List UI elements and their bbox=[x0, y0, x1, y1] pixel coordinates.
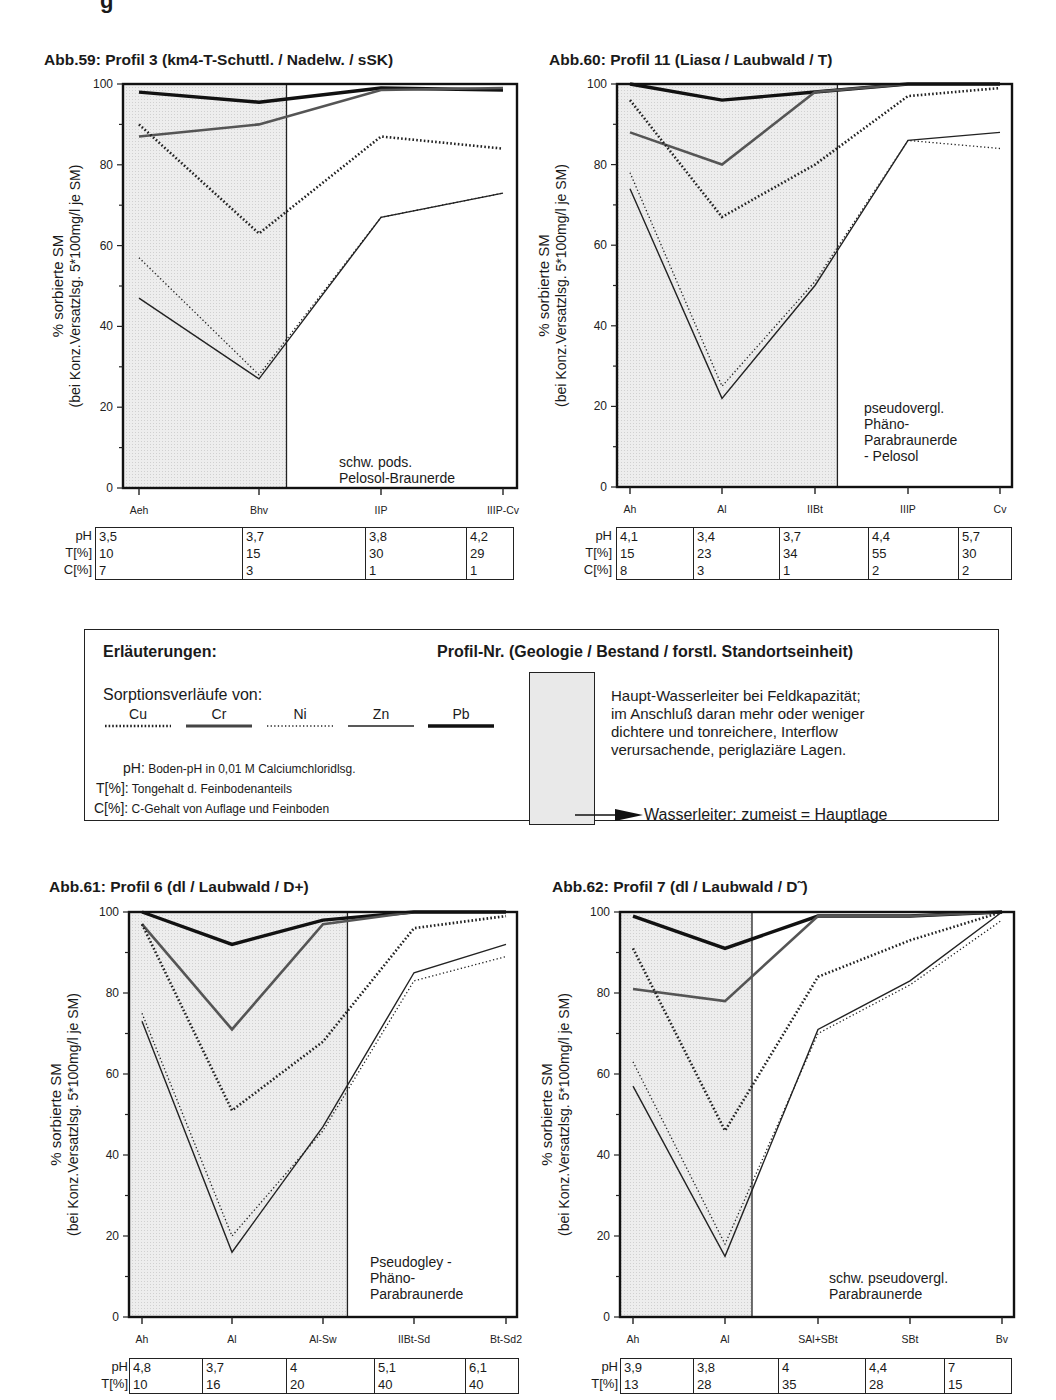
soil-type-label: schw. pseudovergl. Parabraunerde bbox=[829, 1270, 948, 1302]
soil-type-line: Parabraunerde bbox=[829, 1286, 948, 1302]
cell: 35 bbox=[779, 1376, 866, 1394]
x-tick-label: Bv bbox=[996, 1333, 1009, 1345]
x-tick-label: SBt bbox=[902, 1333, 919, 1345]
x-tick-label: Al bbox=[720, 1333, 729, 1345]
cell: 3,8 bbox=[694, 1359, 779, 1377]
row-label-ph: pH bbox=[566, 1358, 618, 1375]
table-row-labels: pH T[%] bbox=[566, 1358, 618, 1392]
cell: 15 bbox=[945, 1376, 1012, 1394]
y-tick-label: 80 bbox=[597, 986, 611, 1000]
cell: 4 bbox=[779, 1359, 866, 1377]
shaded-aquifer-region bbox=[620, 912, 752, 1317]
cell: 28 bbox=[694, 1376, 779, 1394]
cell: 3,9 bbox=[621, 1359, 694, 1377]
y-tick-label: 20 bbox=[597, 1229, 611, 1243]
cell: 7 bbox=[945, 1359, 1012, 1377]
soil-properties-table: 3,93,844,47 1328352815 bbox=[620, 1358, 1012, 1394]
y-tick-label: 40 bbox=[597, 1148, 611, 1162]
y-tick-label: 60 bbox=[597, 1067, 611, 1081]
y-axis-label: % sorbierte SM bbox=[538, 912, 555, 1317]
row-label-t: T[%] bbox=[566, 1375, 618, 1392]
cell: 4,4 bbox=[866, 1359, 945, 1377]
soil-type-line: schw. pseudovergl. bbox=[829, 1270, 948, 1286]
y-axis-sublabel: (bei Konz.Versatzlsg. 5*100mg/l je SM) bbox=[556, 912, 572, 1317]
cell: 13 bbox=[621, 1376, 694, 1394]
x-tick-label: SAl+SBt bbox=[798, 1333, 837, 1345]
x-tick-label: Ah bbox=[627, 1333, 640, 1345]
y-tick-label: 100 bbox=[590, 905, 610, 919]
cell: 28 bbox=[866, 1376, 945, 1394]
chart-plot: 100806040200AhAlSAl+SBtSBtBv bbox=[0, 0, 1056, 1400]
y-tick-label: 0 bbox=[603, 1310, 610, 1324]
